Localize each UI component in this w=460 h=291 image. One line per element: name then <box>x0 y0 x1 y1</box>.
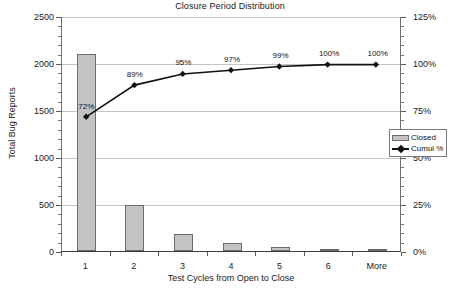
y-axis-right-minor-tick <box>401 186 404 187</box>
plot-area: 72%89%95%97%99%100%100% <box>61 17 401 252</box>
x-axis-title: Test Cycles from Open to Close <box>61 273 401 283</box>
data-label: 100% <box>319 49 339 58</box>
y-axis-right-minor-tick <box>401 55 404 56</box>
data-label: 97% <box>224 55 240 64</box>
y-axis-left: 05001000150020002500 <box>0 17 61 252</box>
y-axis-left-tick-label: 1500 <box>34 106 54 116</box>
y-axis-left-tick-label: 500 <box>39 200 54 210</box>
x-axis-tick <box>158 252 159 256</box>
chart-legend: Closed Cumul % <box>389 129 447 157</box>
data-label: 100% <box>367 49 387 58</box>
x-axis-tick-label: More <box>366 261 387 271</box>
x-axis-tick-label: 3 <box>180 261 185 271</box>
data-point-marker <box>180 71 186 77</box>
y-axis-left-tick-label: 2500 <box>34 12 54 22</box>
line-series-cumulative <box>62 18 400 251</box>
data-label: 72% <box>78 102 94 111</box>
x-axis-tick <box>207 252 208 256</box>
x-axis-tick <box>401 252 402 256</box>
x-axis-tick <box>304 252 305 256</box>
y-axis-right-tick-label: 25% <box>413 200 431 210</box>
x-axis-tick-label: 2 <box>131 261 136 271</box>
x-axis: 123456More <box>61 252 401 274</box>
legend-item-closed: Closed <box>392 132 443 143</box>
y-axis-left-tick-label: 1000 <box>34 153 54 163</box>
chart-title: Closure Period Distribution <box>0 1 460 11</box>
x-axis-tick-label: 5 <box>277 261 282 271</box>
legend-label-cumul: Cumul % <box>411 144 443 153</box>
data-point-marker <box>373 61 379 67</box>
data-point-marker <box>276 63 282 69</box>
data-label: 95% <box>175 58 191 67</box>
x-axis-tick-label: 1 <box>83 261 88 271</box>
y-axis-right-minor-tick <box>401 26 404 27</box>
x-axis-tick-label: 6 <box>326 261 331 271</box>
y-axis-right-tick <box>401 158 406 159</box>
y-axis-left-tick-label: 0 <box>49 247 54 257</box>
y-axis-right-minor-tick <box>401 243 404 244</box>
x-axis-tick <box>110 252 111 256</box>
x-axis-tick <box>352 252 353 256</box>
y-axis-right-tick-label: 75% <box>413 106 431 116</box>
y-axis-right-minor-tick <box>401 102 404 103</box>
y-axis-right-tick-label: 100% <box>413 59 436 69</box>
pareto-chart: Closure Period Distribution Total Bug Re… <box>0 0 460 291</box>
y-axis-right-minor-tick <box>401 92 404 93</box>
x-axis-tick <box>61 252 62 256</box>
y-axis-right-tick <box>401 111 406 112</box>
data-point-marker <box>228 67 234 73</box>
y-axis-right-minor-tick <box>401 45 404 46</box>
y-axis-right-tick <box>401 64 406 65</box>
line-diamond-icon <box>392 144 409 153</box>
y-axis-right-minor-tick <box>401 177 404 178</box>
y-axis-right-minor-tick <box>401 233 404 234</box>
y-axis-right-minor-tick <box>401 73 404 74</box>
y-axis-left-tick-label: 2000 <box>34 59 54 69</box>
y-axis-right-tick <box>401 17 406 18</box>
data-label: 99% <box>273 51 289 60</box>
x-axis-tick <box>255 252 256 256</box>
y-axis-right-tick-label: 0% <box>413 247 426 257</box>
legend-label-closed: Closed <box>411 133 436 142</box>
y-axis-right-minor-tick <box>401 83 404 84</box>
y-axis-right-tick-label: 125% <box>413 12 436 22</box>
y-axis-right-minor-tick <box>401 224 404 225</box>
y-axis-right-minor-tick <box>401 196 404 197</box>
x-axis-tick-label: 4 <box>228 261 233 271</box>
y-axis-right-tick <box>401 205 406 206</box>
y-axis-right-minor-tick <box>401 120 404 121</box>
data-point-marker <box>324 61 330 67</box>
y-axis-right-minor-tick <box>401 167 404 168</box>
data-label: 89% <box>127 70 143 79</box>
bar-swatch-icon <box>392 135 409 141</box>
y-axis-right-minor-tick <box>401 36 404 37</box>
legend-item-cumul: Cumul % <box>392 143 443 154</box>
y-axis-right-minor-tick <box>401 214 404 215</box>
